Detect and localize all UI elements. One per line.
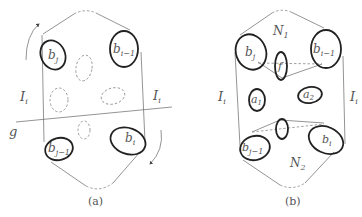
label-a-ii-left: Ii bbox=[19, 89, 28, 106]
panel-b: N1 N2 bj bi−1 f a1 a2 bj−1 bi Ii Ii (b) bbox=[217, 10, 358, 208]
panel-b-bottom-dashed bbox=[280, 183, 305, 188]
panel-a-top-dashed bbox=[74, 11, 96, 14]
rotation-arrow-bottom-icon bbox=[150, 130, 162, 164]
dashed-ellipse-1 bbox=[74, 54, 94, 82]
n1-lower-right-edge bbox=[282, 64, 322, 78]
dashed-ellipse-2 bbox=[50, 88, 68, 112]
label-n2: N2 bbox=[289, 156, 306, 172]
panel-b-bottom-right-edge bbox=[305, 152, 334, 183]
caption-b: (b) bbox=[285, 195, 301, 208]
panel-b-top-dashed bbox=[272, 10, 291, 13]
label-b-ii-right: Ii bbox=[349, 89, 358, 106]
ellipse-center-lower bbox=[276, 119, 288, 139]
panel-b-top-right-edge bbox=[291, 12, 324, 28]
label-b-bi-1: bi−1 bbox=[313, 42, 335, 58]
label-f: f bbox=[277, 60, 284, 73]
panel-b-boundary-left bbox=[235, 52, 240, 146]
label-a-ii-right: Ii bbox=[152, 88, 161, 105]
label-b-bj-1: bj−1 bbox=[242, 141, 263, 156]
label-b-bj: bj bbox=[245, 45, 256, 61]
label-a1: a1 bbox=[251, 93, 262, 107]
label-n1: N1 bbox=[272, 24, 289, 40]
label-g: g bbox=[9, 124, 17, 139]
label-a-bi-1: bi−1 bbox=[113, 42, 135, 58]
panel-a-bottom-left-edge bbox=[51, 162, 86, 186]
label-a-bj-1: bj−1 bbox=[48, 141, 70, 157]
label-a2: a2 bbox=[303, 88, 315, 102]
line-g bbox=[16, 107, 172, 122]
panel-a-top-left-edge bbox=[43, 14, 74, 34]
dashed-ellipse-3 bbox=[99, 85, 126, 107]
panel-a-bottom-dashed bbox=[86, 183, 113, 189]
caption-a: (a) bbox=[88, 195, 103, 208]
diagram-canvas: bj bi−1 bj−1 bi Ii Ii g (a) bbox=[0, 0, 362, 217]
panel-a-boundary-left bbox=[42, 35, 44, 142]
rotation-arrow-top-icon bbox=[26, 24, 39, 60]
n1-dashed-chord bbox=[258, 63, 322, 64]
label-a-bj: bj bbox=[48, 48, 59, 64]
panel-b-top-left-edge bbox=[240, 13, 272, 35]
label-a-bi: bi bbox=[125, 131, 136, 147]
panel-b-bottom-left-edge bbox=[243, 160, 280, 185]
panel-a-bottom-right-edge bbox=[113, 152, 140, 183]
label-b-bi: bi bbox=[322, 133, 332, 148]
label-b-ii-left: Ii bbox=[217, 89, 226, 106]
panel-a-top-right-edge bbox=[96, 13, 130, 30]
dashed-ellipse-4 bbox=[78, 121, 90, 139]
panel-a-boundary-right bbox=[141, 52, 145, 142]
panel-b-boundary-right bbox=[343, 56, 345, 144]
panel-a: bj bi−1 bj−1 bi Ii Ii g (a) bbox=[9, 11, 172, 208]
